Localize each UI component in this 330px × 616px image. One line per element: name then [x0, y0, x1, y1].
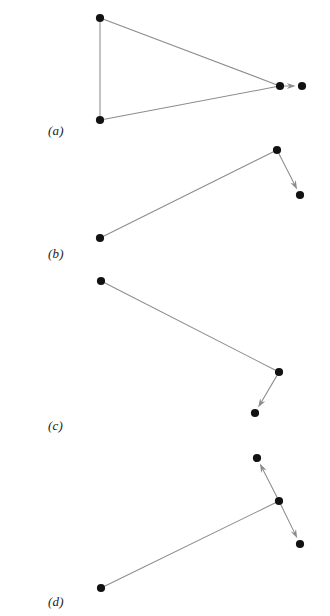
node-c-target — [251, 409, 259, 417]
node-d-target-down — [296, 540, 304, 548]
node-b-target — [296, 191, 304, 199]
edge-c-left-to-right — [105, 283, 275, 370]
panel-a-label: (a) — [48, 123, 64, 139]
node-a-top-left — [96, 14, 104, 22]
edge-a-bottom-to-apex — [104, 87, 275, 119]
graph-figure-canvas — [0, 0, 330, 616]
panel-c-nodes — [97, 277, 283, 417]
node-a-target — [298, 82, 306, 90]
edge-d-center-to-up-shaft — [262, 468, 277, 497]
panel-d-nodes — [97, 454, 304, 592]
panel-b — [104, 152, 297, 236]
edge-a-top-to-apex — [104, 20, 276, 85]
panel-a — [100, 20, 296, 120]
node-b-top-right — [273, 146, 281, 154]
node-a-apex — [276, 82, 284, 90]
edge-d-center-to-up-arrowhead-icon — [260, 464, 267, 473]
node-c-top-left — [97, 277, 105, 285]
edge-b-top-to-target-shaft — [279, 154, 295, 185]
edge-d-left-to-center — [105, 503, 275, 586]
edge-c-right-to-target-arrowhead-icon — [258, 398, 265, 407]
panel-b-nodes — [96, 146, 304, 242]
figure-root: (a)(b)(c)(d) — [0, 0, 330, 616]
edge-b-left-to-top — [104, 152, 273, 236]
panel-d-label: (d) — [48, 594, 64, 610]
node-d-target-up — [253, 454, 261, 462]
edge-b-top-to-target-arrowhead-icon — [290, 180, 297, 189]
node-d-bottom-left — [97, 584, 105, 592]
panel-c-label: (c) — [48, 418, 63, 434]
edge-d-center-to-down-shaft — [281, 505, 295, 534]
panel-a-nodes — [96, 14, 306, 124]
edge-c-right-to-target-shaft — [261, 376, 277, 403]
node-c-right — [275, 368, 283, 376]
panel-c — [105, 283, 277, 408]
node-b-bottom-left — [96, 234, 104, 242]
panel-b-label: (b) — [48, 246, 64, 262]
node-a-bottom-left — [96, 116, 104, 124]
node-d-center — [275, 497, 283, 505]
panel-d — [105, 464, 297, 586]
edges-layer — [100, 20, 297, 586]
